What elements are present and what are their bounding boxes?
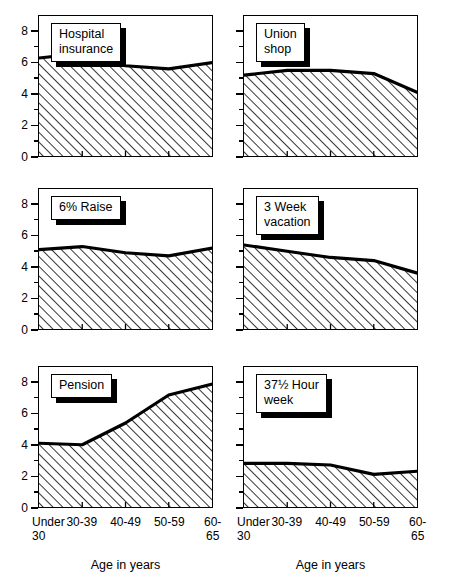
y-axis-minor-tick (239, 282, 243, 284)
y-axis-major-tick (31, 476, 38, 478)
y-axis-major-tick (31, 156, 38, 158)
y-axis-minor-tick (34, 250, 38, 252)
y-axis-minor-tick (239, 313, 243, 315)
panel-label: 6% Raise (51, 196, 121, 220)
y-axis-major-tick (236, 30, 243, 32)
y-axis-minor-tick (239, 460, 243, 462)
y-axis-major-tick (31, 444, 38, 446)
y-axis-major-tick (236, 444, 243, 446)
y-axis-minor-tick (239, 46, 243, 48)
y-axis-major-tick (31, 266, 38, 268)
figure-root: 02468Hospital insuranceUnion shop024686%… (0, 0, 457, 581)
x-axis-tick-label: 30-39 (271, 515, 302, 529)
y-axis-minor-tick (34, 219, 38, 221)
x-axis-tick-label: 60-65 (409, 515, 426, 543)
panel-label-text: 37½ Hour week (256, 374, 327, 413)
y-axis-minor-tick (239, 491, 243, 493)
x-axis-tick-label: Under 30 (32, 515, 65, 543)
y-axis-minor-tick (34, 109, 38, 111)
y-axis-minor-tick (239, 219, 243, 221)
panel-label: Hospital insurance (51, 23, 121, 62)
y-axis-major-tick (236, 125, 243, 127)
y-axis-tick-label: 6 (4, 407, 28, 419)
x-axis-tick-labels: Under 3030-3940-4950-5960-65 (38, 515, 213, 549)
y-axis-major-tick (236, 329, 243, 331)
y-axis-major-tick (31, 62, 38, 64)
x-axis-tick-label: 50-59 (154, 515, 185, 529)
y-axis-minor-tick (34, 397, 38, 399)
y-axis-tick-label: 8 (4, 198, 28, 210)
panel-label-text: 6% Raise (51, 196, 121, 220)
y-axis-major-tick (236, 203, 243, 205)
y-axis-tick-label: 2 (4, 292, 28, 304)
y-axis-minor-tick (34, 282, 38, 284)
y-axis-major-tick (236, 413, 243, 415)
y-axis-major-tick (31, 203, 38, 205)
y-axis-minor-tick (239, 428, 243, 430)
y-axis-major-tick (31, 329, 38, 331)
panel-label-text: 3 Week vacation (256, 196, 319, 235)
y-axis-major-tick (236, 507, 243, 509)
panel-label: 37½ Hour week (256, 374, 327, 413)
panel-label-text: Union shop (256, 23, 305, 62)
y-axis-tick-label: 8 (4, 25, 28, 37)
y-axis-major-tick (236, 476, 243, 478)
y-axis-tick-label: 4 (4, 88, 28, 100)
y-axis-minor-tick (34, 46, 38, 48)
y-axis-tick-label: 0 (4, 151, 28, 163)
x-axis-tick-label: 30-39 (66, 515, 97, 529)
y-axis-major-tick (31, 381, 38, 383)
y-axis-major-tick (31, 93, 38, 95)
y-axis-major-tick (236, 156, 243, 158)
y-axis-major-tick (31, 30, 38, 32)
y-axis-minor-tick (34, 428, 38, 430)
y-axis-major-tick (31, 507, 38, 509)
x-axis-tick-label: 60-65 (204, 515, 221, 543)
y-axis-minor-tick (34, 140, 38, 142)
y-axis-minor-tick (34, 313, 38, 315)
y-axis-tick-label: 0 (4, 502, 28, 514)
x-axis-tick-label: 50-59 (359, 515, 390, 529)
y-axis-major-tick (236, 93, 243, 95)
y-axis-tick-label: 4 (4, 439, 28, 451)
y-axis-minor-tick (34, 491, 38, 493)
x-axis-tick-labels: Under 3030-3940-4950-5960-65 (243, 515, 418, 549)
x-axis-title: Age in years (91, 558, 160, 572)
y-axis-tick-label: 8 (4, 376, 28, 388)
y-axis-tick-label: 2 (4, 470, 28, 482)
y-axis-major-tick (236, 62, 243, 64)
x-axis-tick-label: 40-49 (110, 515, 141, 529)
y-axis-major-tick (31, 413, 38, 415)
y-axis-major-tick (236, 235, 243, 237)
y-axis-tick-label: 2 (4, 119, 28, 131)
y-axis-major-tick (31, 235, 38, 237)
y-axis-tick-label: 4 (4, 261, 28, 273)
x-axis-tick-label: Under 30 (237, 515, 270, 543)
panel-label: Union shop (256, 23, 305, 62)
y-axis-minor-tick (239, 397, 243, 399)
panel-label: Pension (51, 374, 112, 398)
y-axis-minor-tick (34, 77, 38, 79)
x-axis-tick-label: 40-49 (315, 515, 346, 529)
y-axis-major-tick (31, 125, 38, 127)
y-axis-tick-label: 0 (4, 324, 28, 336)
x-axis-title: Age in years (296, 558, 365, 572)
y-axis-major-tick (236, 266, 243, 268)
y-axis-major-tick (236, 381, 243, 383)
panel-label: 3 Week vacation (256, 196, 319, 235)
y-axis-minor-tick (239, 250, 243, 252)
panel-label-text: Pension (51, 374, 112, 398)
y-axis-tick-label: 6 (4, 229, 28, 241)
y-axis-major-tick (31, 298, 38, 300)
y-axis-minor-tick (239, 140, 243, 142)
panel-label-text: Hospital insurance (51, 23, 121, 62)
y-axis-minor-tick (239, 109, 243, 111)
y-axis-minor-tick (239, 77, 243, 79)
y-axis-tick-label: 6 (4, 56, 28, 68)
y-axis-minor-tick (34, 460, 38, 462)
y-axis-major-tick (236, 298, 243, 300)
